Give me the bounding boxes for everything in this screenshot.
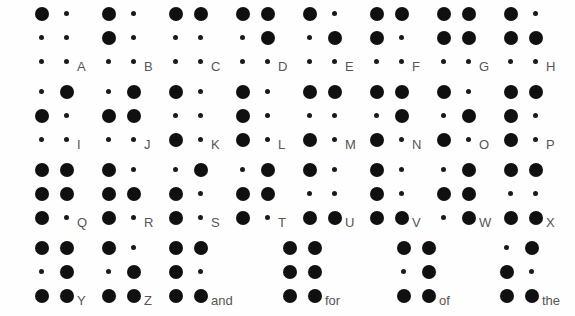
braille-dot-flat-3 xyxy=(106,137,111,142)
braille-dot-raised-1 xyxy=(303,7,317,21)
braille-dot-flat-3 xyxy=(106,59,111,64)
braille-cell xyxy=(102,238,140,310)
braille-dot-raised-6 xyxy=(308,289,322,303)
braille-dot-raised-3 xyxy=(169,289,183,303)
braille-dot-flat-6 xyxy=(131,215,136,220)
braille-dot-raised-1 xyxy=(370,163,384,177)
braille-dot-flat-5 xyxy=(332,113,337,118)
braille-dot-raised-2 xyxy=(437,187,451,201)
braille-dot-raised-2 xyxy=(437,31,451,45)
braille-dot-raised-4 xyxy=(395,7,409,21)
braille-dot-flat-2 xyxy=(374,113,379,118)
braille-dot-raised-2 xyxy=(102,109,116,123)
braille-entry-n: N xyxy=(370,82,421,154)
braille-dot-raised-5 xyxy=(127,187,141,201)
braille-cell xyxy=(370,160,408,232)
braille-dot-raised-2 xyxy=(500,265,514,279)
braille-cell xyxy=(437,160,475,232)
braille-entry-c: C xyxy=(169,4,220,76)
braille-entry-label: C xyxy=(207,60,220,76)
braille-cell xyxy=(283,238,321,310)
braille-dot-raised-2 xyxy=(169,265,183,279)
braille-dot-raised-3 xyxy=(169,211,183,225)
braille-dot-flat-6 xyxy=(399,137,404,142)
braille-dot-raised-4 xyxy=(127,85,141,99)
braille-entry-label: U xyxy=(341,216,354,232)
braille-entry-label: W xyxy=(475,216,491,232)
braille-entry-e: E xyxy=(303,4,354,76)
braille-entry-label: M xyxy=(341,138,356,154)
braille-entry-h: H xyxy=(504,4,555,76)
braille-dot-raised-1 xyxy=(169,241,183,255)
braille-cell xyxy=(236,160,274,232)
braille-dot-flat-5 xyxy=(64,113,69,118)
braille-entry-label: V xyxy=(408,216,421,232)
braille-dot-flat-5 xyxy=(198,113,203,118)
braille-entry-and: and xyxy=(169,238,233,310)
braille-cell xyxy=(35,238,73,310)
braille-dot-raised-5 xyxy=(308,265,322,279)
braille-dot-raised-1 xyxy=(504,163,518,177)
braille-dot-raised-5 xyxy=(422,265,436,279)
braille-dot-flat-3 xyxy=(374,59,379,64)
braille-entry-m: M xyxy=(303,82,356,154)
braille-dot-raised-3 xyxy=(397,289,411,303)
braille-dot-flat-5 xyxy=(399,191,404,196)
braille-dot-raised-3 xyxy=(500,289,514,303)
braille-row: ABCDEFGH xyxy=(0,4,575,76)
braille-cell xyxy=(437,82,475,154)
braille-cell xyxy=(437,4,475,76)
braille-dot-flat-4 xyxy=(64,11,69,16)
braille-entry-s: S xyxy=(169,160,220,232)
braille-dot-raised-1 xyxy=(169,85,183,99)
braille-dot-raised-3 xyxy=(303,133,317,147)
braille-entry-label: E xyxy=(341,60,354,76)
braille-row: YZandforofthe xyxy=(0,238,575,310)
braille-dot-flat-2 xyxy=(39,35,44,40)
braille-dot-raised-3 xyxy=(283,289,297,303)
braille-dot-raised-3 xyxy=(303,211,317,225)
braille-dot-flat-4 xyxy=(399,167,404,172)
braille-dot-flat-1 xyxy=(504,245,509,250)
braille-dot-raised-1 xyxy=(169,7,183,21)
braille-dot-flat-2 xyxy=(106,269,111,274)
braille-entry-x: X xyxy=(504,160,555,232)
braille-dot-raised-5 xyxy=(462,31,476,45)
braille-dot-raised-2 xyxy=(35,187,49,201)
braille-entry-g: G xyxy=(437,4,489,76)
braille-dot-flat-5 xyxy=(265,113,270,118)
braille-dot-raised-4 xyxy=(462,7,476,21)
braille-dot-flat-5 xyxy=(399,35,404,40)
braille-entry-label: F xyxy=(408,60,420,76)
braille-dot-raised-1 xyxy=(303,163,317,177)
braille-dot-raised-5 xyxy=(127,109,141,123)
braille-row: IJKLMNOP xyxy=(0,82,575,154)
braille-entry-label: and xyxy=(207,294,233,310)
braille-dot-flat-6 xyxy=(533,59,538,64)
braille-entry-a: A xyxy=(35,4,86,76)
braille-dot-raised-2 xyxy=(370,31,384,45)
braille-dot-raised-4 xyxy=(395,85,409,99)
braille-dot-flat-6 xyxy=(131,137,136,142)
braille-dot-flat-6 xyxy=(64,137,69,142)
braille-dot-raised-4 xyxy=(525,241,539,255)
braille-dot-flat-5 xyxy=(198,35,203,40)
braille-dot-raised-1 xyxy=(236,7,250,21)
braille-dot-flat-2 xyxy=(240,35,245,40)
braille-entry-o: O xyxy=(437,82,489,154)
braille-dot-raised-1 xyxy=(370,85,384,99)
braille-dot-flat-6 xyxy=(332,59,337,64)
braille-cell xyxy=(236,82,274,154)
braille-entry-i: I xyxy=(35,82,81,154)
braille-dot-raised-1 xyxy=(35,163,49,177)
braille-dot-raised-6 xyxy=(194,289,208,303)
braille-dot-flat-4 xyxy=(265,89,270,94)
braille-entry-z: Z xyxy=(102,238,152,310)
braille-entry-label: the xyxy=(538,294,560,310)
braille-dot-flat-2 xyxy=(173,35,178,40)
braille-dot-flat-6 xyxy=(332,137,337,142)
braille-dot-raised-2 xyxy=(504,31,518,45)
braille-dot-raised-3 xyxy=(102,289,116,303)
braille-entry-r: R xyxy=(102,160,153,232)
braille-dot-flat-3 xyxy=(307,59,312,64)
